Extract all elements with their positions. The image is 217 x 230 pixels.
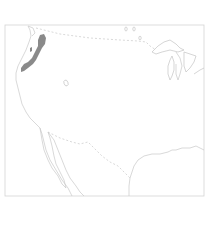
map-frame bbox=[5, 25, 204, 196]
lake-michigan bbox=[168, 56, 174, 80]
range-map bbox=[0, 0, 217, 230]
range-patch-small bbox=[30, 47, 32, 52]
michigan-peninsula bbox=[176, 52, 182, 80]
great-salt-lake bbox=[63, 79, 69, 86]
lake-small bbox=[133, 27, 135, 31]
us-canada-border bbox=[36, 28, 156, 50]
gulf-of-california bbox=[48, 132, 84, 196]
baja-california bbox=[40, 128, 66, 188]
pacific-coastline bbox=[16, 26, 72, 196]
gulf-coast bbox=[130, 146, 204, 178]
lake-huron bbox=[184, 52, 196, 72]
lake-erie bbox=[194, 68, 204, 74]
lake-superior bbox=[152, 40, 184, 54]
texas-south bbox=[129, 178, 130, 196]
lake-small-2 bbox=[139, 36, 141, 40]
lake-woods bbox=[125, 27, 127, 31]
